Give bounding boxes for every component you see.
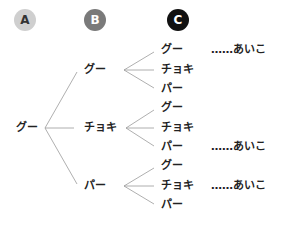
level1-node: パー [84, 179, 106, 193]
root-node: グー [16, 121, 38, 135]
level2-node: チョキ [161, 121, 194, 135]
draw-note: ……あいこ [211, 43, 266, 57]
level1-node: チョキ [84, 121, 117, 135]
level2-node: グー [161, 159, 183, 173]
level2-node: パー [161, 82, 183, 96]
draw-note: ……あいこ [211, 140, 266, 154]
level2-node: チョキ [161, 179, 194, 193]
level2-node: パー [161, 198, 183, 212]
level2-node: グー [161, 43, 183, 57]
level2-node: グー [161, 101, 183, 115]
level2-node: パー [161, 140, 183, 154]
level1-node: グー [84, 63, 106, 77]
level2-node: チョキ [161, 63, 194, 77]
draw-note: ……あいこ [211, 179, 266, 193]
